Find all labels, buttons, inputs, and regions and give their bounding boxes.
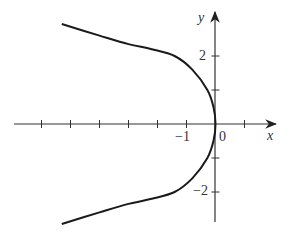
chart: x y 0 −1 2 −2 <box>0 0 291 238</box>
x-axis-label: x <box>266 128 274 143</box>
y-tick-label-2: 2 <box>199 48 206 63</box>
axes <box>14 12 276 222</box>
y-axis-label: y <box>196 10 205 25</box>
origin-label: 0 <box>219 129 226 144</box>
x-tick-label-neg1: −1 <box>175 129 190 144</box>
y-tick-label-neg2: −2 <box>193 183 208 198</box>
